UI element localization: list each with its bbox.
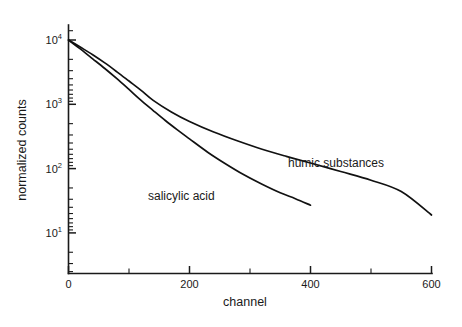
y-tick-label-1e1: 101 [46, 225, 62, 239]
data-curves [69, 40, 432, 215]
y-tick-label-1e2: 102 [46, 161, 62, 175]
x-axis-title: channel [223, 295, 267, 309]
y-axis-title: normalized counts [15, 99, 29, 200]
y-axis-ticks [69, 31, 77, 272]
axis-lines [69, 25, 433, 274]
curve-label-humic-substances: humic substances [288, 156, 384, 170]
x-tick-label-200: 200 [180, 278, 198, 290]
x-axis-ticks [69, 266, 432, 274]
chart-figure: 104 103 102 101 0 200 400 600 channel no… [0, 0, 462, 327]
x-tick-labels: 0 200 400 600 [65, 278, 440, 290]
x-tick-label-0: 0 [65, 278, 71, 290]
curve-salicylic-acid [69, 40, 311, 205]
curve-humic-substances [69, 40, 432, 215]
y-tick-labels: 104 103 102 101 [46, 32, 62, 239]
y-tick-label-1e4: 104 [46, 32, 62, 46]
y-tick-label-1e3: 103 [46, 96, 62, 110]
chart-svg: 104 103 102 101 0 200 400 600 channel no… [0, 0, 462, 327]
x-tick-label-400: 400 [301, 278, 319, 290]
x-tick-label-600: 600 [422, 278, 440, 290]
curve-label-salicylic-acid: salicylic acid [148, 189, 215, 203]
